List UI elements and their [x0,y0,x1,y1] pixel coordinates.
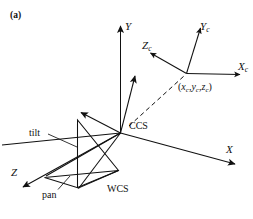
wcs-axes [23,26,235,187]
coord-close-paren: ) [208,81,211,92]
axis-label-z-text: Z [11,166,17,178]
figure-panel-a: (a) Y X Z Xc Yc Zc (xc,yc,zc) CCS WCS ti… [0,0,253,219]
pan-label: pan [42,190,56,200]
ccs-origin-coordinate-label: (xc,yc,zc) [178,82,212,94]
ccs-zc-axis [151,53,187,74]
ccs-xc-axis [187,74,241,75]
ccs-yc-axis [187,28,201,74]
axis-label-y-text: Y [125,20,131,32]
pan-arm-base [79,133,121,189]
axis-label-x: X [226,144,233,155]
tilt-label: tilt [29,128,40,138]
axis-label-zc-subscript: c [148,44,151,53]
tilt-arm [81,113,121,134]
axis-label-z: Z [11,167,17,178]
ccs-origin-dashed-link [129,76,184,126]
ccs-axes [151,28,241,75]
wcs-frame-label: WCS [107,184,129,194]
axis-label-yc-subscript: c [206,25,209,34]
axis-label-yc: Yc [200,21,209,33]
panel-label: (a) [10,11,21,21]
axis-label-y: Y [125,21,131,32]
axis-label-zc: Zc [142,40,151,52]
tilt-leader-line [48,134,77,147]
leader-lines [48,134,77,190]
ccs-origin-label: CCS [129,121,148,131]
axis-label-xc: Xc [238,61,248,73]
axis-label-xc-text: X [238,60,245,72]
axis-label-x-text: X [226,143,233,155]
axis-label-xc-subscript: c [245,65,248,74]
wcs-x-axis [121,133,236,164]
